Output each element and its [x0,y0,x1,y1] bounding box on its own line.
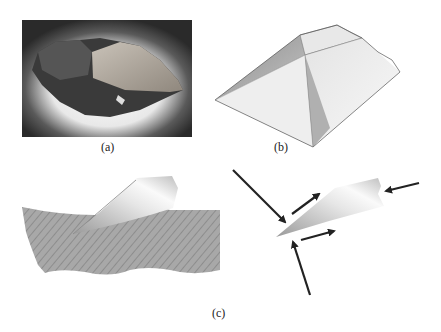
arrow-along-bottom [301,231,334,240]
figure: (a) (b) (c) [0,0,441,332]
arrow-left [386,183,419,191]
panel-a-label: (a) [101,140,114,155]
figure-svg [0,0,441,332]
panel-b-pyramid [215,25,400,147]
panel-b-label: (b) [274,140,288,155]
panel-c-label: (c) [212,306,225,321]
panel-c-material [22,176,220,275]
arrow-down-right [233,170,285,222]
arrow-up [293,242,310,295]
panel-c-force-diagram [233,170,419,295]
panel-a-photo [22,20,192,137]
